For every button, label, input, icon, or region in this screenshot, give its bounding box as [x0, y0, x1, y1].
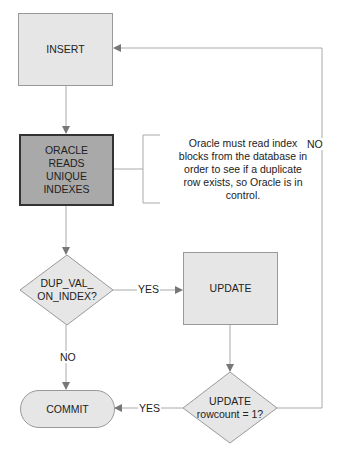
node-update[interactable]: UPDATE	[183, 252, 278, 325]
node-dup-label-2: ON_INDEX?	[37, 290, 97, 303]
annotation-line-5: control.	[148, 189, 338, 202]
edge-label-dup-no: NO	[59, 351, 77, 363]
node-rowcount-label-2: rowcount = 1?	[197, 408, 263, 421]
node-insert[interactable]: INSERT	[18, 13, 113, 86]
node-oracle-label-3: UNIQUE	[46, 170, 87, 183]
node-dup-label-1: DUP_VAL_	[41, 277, 94, 290]
node-oracle-reads[interactable]: ORACLE READS UNIQUE INDEXES	[19, 134, 114, 206]
node-insert-label: INSERT	[46, 43, 84, 56]
node-oracle-label-2: READS	[48, 157, 84, 170]
edge-label-rowcount-yes: YES	[138, 402, 161, 414]
annotation-line-4: row exists, so Oracle is in	[148, 176, 338, 189]
node-oracle-label-4: INDEXES	[43, 183, 89, 196]
node-oracle-label-1: ORACLE	[45, 144, 88, 157]
edge-rowcount-insert	[114, 48, 322, 408]
node-rowcount-label-1: UPDATE	[209, 395, 251, 408]
edge-label-dup-yes: YES	[137, 283, 160, 295]
annotation-line-3: order to see if a duplicate	[148, 163, 338, 176]
annotation-line-2: blocks from the database in	[148, 150, 338, 163]
edge-label-rowcount-no: NO	[306, 138, 324, 150]
node-update-label: UPDATE	[210, 282, 252, 295]
node-update-rowcount[interactable]: UPDATE rowcount = 1?	[183, 372, 277, 443]
node-commit[interactable]: COMMIT	[20, 390, 115, 428]
node-commit-label: COMMIT	[46, 403, 89, 416]
node-dup-val-on-index[interactable]: DUP_VAL_ ON_INDEX?	[20, 255, 114, 325]
